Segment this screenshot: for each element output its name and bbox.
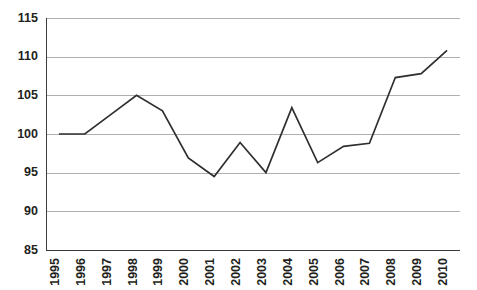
x-tick-label-1999: 1999 xyxy=(151,258,165,286)
x-tick-label-1996: 1996 xyxy=(74,258,88,286)
x-tick-label-2006: 2006 xyxy=(333,258,347,286)
x-tick-label-1997: 1997 xyxy=(100,258,114,286)
line-chart: 859095100105110115 199519961997199819992… xyxy=(0,0,477,290)
x-tick-label-2007: 2007 xyxy=(358,258,372,286)
x-tick-label-2005: 2005 xyxy=(307,258,321,286)
y-tick-label-85: 85 xyxy=(24,243,38,257)
x-tick-label-2004: 2004 xyxy=(281,258,295,286)
x-tick-label-2009: 2009 xyxy=(410,258,424,286)
x-tick-label-2000: 2000 xyxy=(177,258,191,286)
x-tick-label-2001: 2001 xyxy=(203,258,217,286)
y-tick-label-110: 110 xyxy=(18,49,38,63)
x-tick-label-2003: 2003 xyxy=(255,258,269,286)
x-tick-label-1995: 1995 xyxy=(48,258,62,286)
chart-canvas: 859095100105110115 199519961997199819992… xyxy=(0,0,477,290)
y-tick-label-95: 95 xyxy=(24,165,38,179)
x-tick-label-2002: 2002 xyxy=(229,258,243,286)
y-tick-label-115: 115 xyxy=(18,11,38,25)
x-tick-label-2008: 2008 xyxy=(384,258,398,286)
x-tick-label-2010: 2010 xyxy=(436,258,450,286)
x-tick-label-1998: 1998 xyxy=(126,258,140,286)
y-tick-label-105: 105 xyxy=(17,88,38,102)
y-tick-label-100: 100 xyxy=(17,127,38,141)
y-tick-label-90: 90 xyxy=(24,204,38,218)
